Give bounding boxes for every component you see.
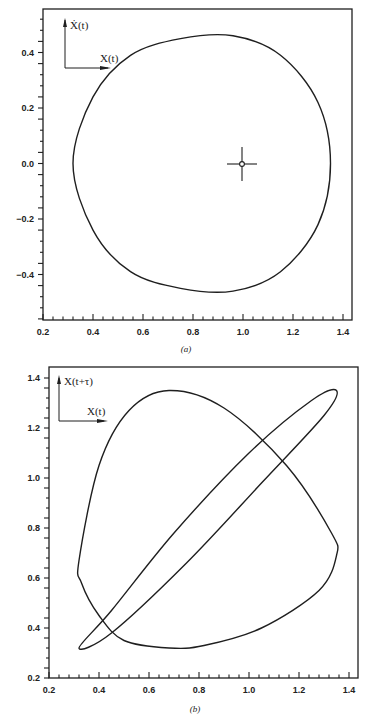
arrow-up-icon: [57, 375, 61, 384]
fixed-point-marker: [227, 147, 257, 181]
y-tick-label: 0.6: [27, 573, 40, 583]
x-tick-label: 1.2: [293, 685, 306, 695]
x-tick-label: 0.4: [93, 685, 106, 695]
x-tick-label: 0.6: [137, 327, 150, 337]
plot-a-tick-labels: 0.20.40.60.81.01.21.40.40.20.0−0.2−0.4: [16, 48, 349, 338]
y-tick-label: 0.8: [27, 523, 40, 533]
plot-b-triangular-loop: [78, 390, 338, 648]
inset-y-label-a: Ẋ(t): [70, 19, 89, 32]
x-tick-label: 1.0: [237, 327, 250, 337]
x-tick-label: 1.0: [243, 685, 256, 695]
x-tick-label: 1.4: [343, 685, 356, 695]
x-tick-label: 1.4: [337, 327, 350, 337]
arrow-right-icon: [97, 419, 108, 423]
plot-a-frame: [43, 9, 352, 320]
x-tick-label: 0.2: [37, 327, 50, 337]
y-tick-label: −0.4: [16, 270, 34, 280]
inset-y-label-b: X(t+τ): [64, 375, 93, 388]
inset-axes-b: X(t+τ) X(t): [57, 375, 108, 423]
y-tick-label: −0.2: [16, 214, 34, 224]
caption-b: (b): [190, 704, 201, 714]
plot-a-limit-cycle: [73, 35, 331, 293]
x-tick-label: 0.4: [87, 327, 100, 337]
arrow-up-icon: [63, 18, 67, 27]
y-tick-label: 1.0: [27, 473, 40, 483]
x-tick-label: 1.2: [287, 327, 300, 337]
figure: 0.20.40.60.81.01.21.40.40.20.0−0.2−0.4 Ẋ…: [0, 0, 367, 721]
plot-b-delay-embedding: 0.20.40.60.81.01.21.41.41.21.00.80.60.40…: [27, 367, 358, 714]
plot-a-phase-portrait: 0.20.40.60.81.01.21.40.40.20.0−0.2−0.4 Ẋ…: [16, 9, 352, 354]
inset-axes-a: Ẋ(t) X(t): [63, 18, 119, 70]
x-tick-label: 0.8: [193, 685, 206, 695]
plot-b-thin-ellipse: [79, 390, 337, 650]
arrow-right-icon: [100, 66, 111, 70]
x-tick-label: 0.8: [187, 327, 200, 337]
x-tick-label: 0.6: [143, 685, 156, 695]
y-tick-label: 0.4: [21, 48, 34, 58]
caption-a: (a): [181, 344, 192, 354]
y-tick-label: 0.2: [27, 673, 40, 683]
plot-b-ticks: [44, 378, 349, 678]
y-tick-label: 0.2: [21, 103, 34, 113]
y-tick-label: 0.4: [27, 623, 40, 633]
inset-x-label-b: X(t): [87, 405, 106, 418]
y-tick-label: 1.2: [27, 423, 40, 433]
inset-x-label-a: X(t): [100, 52, 119, 65]
x-tick-label: 0.2: [43, 685, 56, 695]
y-tick-label: 1.4: [27, 373, 40, 383]
y-tick-label: 0.0: [21, 159, 34, 169]
plot-a-ticks: [38, 19, 343, 320]
